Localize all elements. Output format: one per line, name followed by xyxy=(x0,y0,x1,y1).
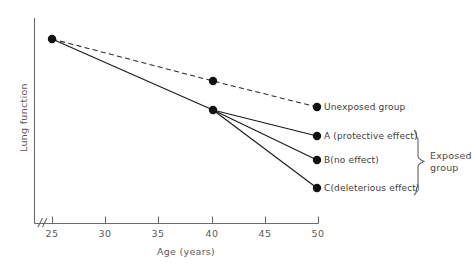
lung-function-age-figure: 25 30 35 40 45 50 Age (years) Lung funct… xyxy=(0,0,472,271)
series-label-a: A (protective effect) xyxy=(324,131,418,141)
series-line-exposed-trunk xyxy=(52,39,213,110)
series-label-b: B(no effect) xyxy=(324,155,379,165)
exposed-group-label: Exposed group xyxy=(430,150,472,173)
series-line-c xyxy=(213,110,317,188)
exposed-group-label-line1: Exposed xyxy=(430,150,472,162)
data-point-exposed-junction xyxy=(209,106,217,114)
x-tick-label-30: 30 xyxy=(99,228,112,239)
data-point-c-end xyxy=(313,184,321,192)
x-tick-label-50: 50 xyxy=(312,228,325,239)
exposed-group-label-line2: group xyxy=(430,162,472,174)
x-axis-ticks xyxy=(53,217,319,224)
x-tick-label-25: 25 xyxy=(46,228,59,239)
x-tick-label-35: 35 xyxy=(152,228,165,239)
data-point-unexposed-mid xyxy=(209,77,217,85)
series-label-c: C(deleterious effect) xyxy=(324,183,420,193)
x-tick-label-45: 45 xyxy=(259,228,272,239)
series-line-a xyxy=(213,110,317,136)
data-point-a-end xyxy=(313,132,321,140)
data-point-b-end xyxy=(313,156,321,164)
series-line-b xyxy=(213,110,317,160)
data-point-start xyxy=(48,35,56,43)
data-point-unexposed-end xyxy=(313,103,321,111)
x-axis-title: Age (years) xyxy=(157,246,215,257)
x-tick-label-40: 40 xyxy=(206,228,219,239)
y-axis-title: Lung function xyxy=(18,83,29,152)
series-line-unexposed xyxy=(52,39,317,107)
axis-break-icon xyxy=(38,218,47,227)
series-label-unexposed: Unexposed group xyxy=(324,102,405,112)
